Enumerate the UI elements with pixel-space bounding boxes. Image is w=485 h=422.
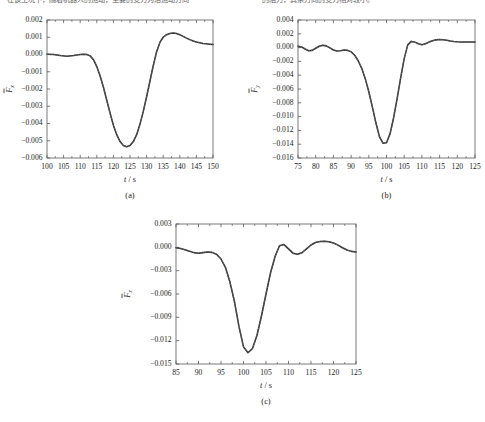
panel-a-svg: 1001051101151201251301351401451500.0020.… bbox=[0, 10, 225, 210]
x-tick-label: 95 bbox=[217, 368, 225, 377]
y-tick-label: −0.009 bbox=[150, 312, 172, 321]
data-curve bbox=[298, 39, 475, 143]
x-tick-label: 145 bbox=[191, 162, 203, 171]
y-tick-label: −0.001 bbox=[21, 67, 43, 76]
x-tick-label: 125 bbox=[350, 368, 362, 377]
x-tick-label: 100 bbox=[41, 162, 53, 171]
x-tick-label: 120 bbox=[108, 162, 120, 171]
x-tick-label: 85 bbox=[172, 368, 180, 377]
data-curve bbox=[47, 33, 213, 147]
x-tick-label: 90 bbox=[195, 368, 203, 377]
y-tick-label: 0.003 bbox=[154, 219, 171, 228]
plot-frame bbox=[47, 20, 213, 158]
x-tick-label: 80 bbox=[312, 162, 320, 171]
chart-panel-a: 1001051101151201251301351401451500.0020.… bbox=[0, 10, 225, 210]
x-tick-label: 105 bbox=[260, 368, 272, 377]
x-tick-label: 105 bbox=[399, 162, 411, 171]
x-tick-label: 150 bbox=[207, 162, 219, 171]
figure-page: 在该工况下，随着机器人的运动，主要的受力为沿运动方向 的阻力，其余方向的受力相对… bbox=[0, 0, 485, 422]
y-axis-title: Fx bbox=[4, 85, 15, 94]
panel-c-svg: 8590951001051101151201250.0030.000−0.003… bbox=[118, 212, 368, 420]
y-tick-label: −0.015 bbox=[150, 359, 172, 368]
y-tick-label: 0.000 bbox=[154, 242, 171, 251]
x-tick-label: 95 bbox=[365, 162, 373, 171]
y-tick-label: −0.006 bbox=[150, 289, 172, 298]
body-text-row: 在该工况下，随着机器人的运动，主要的受力为沿运动方向 的阻力，其余方向的受力相对… bbox=[0, 0, 485, 9]
x-tick-label: 110 bbox=[416, 162, 427, 171]
svg-text:Fx: Fx bbox=[5, 85, 15, 94]
x-tick-label: 100 bbox=[238, 368, 250, 377]
data-curve-highlight bbox=[47, 33, 213, 147]
y-tick-label: −0.012 bbox=[150, 335, 172, 344]
x-tick-label: 110 bbox=[283, 368, 294, 377]
y-tick-label: −0.014 bbox=[272, 139, 294, 148]
panel-b-svg: 75808590951001051101151201250.0040.0020.… bbox=[245, 10, 485, 210]
body-text-right: 的阻力，其余方向的受力相对较小。 bbox=[262, 0, 374, 4]
y-tick-label: −0.005 bbox=[21, 136, 43, 145]
y-tick-label: −0.010 bbox=[272, 111, 294, 120]
x-tick-label: 120 bbox=[328, 368, 340, 377]
y-axis-title: Fz bbox=[122, 290, 133, 299]
y-tick-label: 0.004 bbox=[276, 15, 293, 24]
x-tick-label: 105 bbox=[58, 162, 70, 171]
panel-caption: (a) bbox=[125, 191, 135, 200]
x-tick-label: 85 bbox=[330, 162, 338, 171]
x-tick-label: 135 bbox=[158, 162, 170, 171]
x-tick-label: 90 bbox=[347, 162, 355, 171]
y-tick-label: −0.002 bbox=[21, 84, 43, 93]
x-tick-label: 100 bbox=[381, 162, 393, 171]
x-axis-title: t / s bbox=[260, 381, 272, 390]
x-tick-label: 125 bbox=[469, 162, 481, 171]
y-tick-label: −0.004 bbox=[21, 118, 43, 127]
x-tick-label: 115 bbox=[305, 368, 316, 377]
x-tick-label: 140 bbox=[174, 162, 186, 171]
x-tick-label: 130 bbox=[141, 162, 153, 171]
x-tick-label: 75 bbox=[294, 162, 302, 171]
data-curve bbox=[176, 241, 356, 352]
y-axis-title: Fy bbox=[249, 85, 260, 94]
x-tick-label: 115 bbox=[434, 162, 445, 171]
y-tick-label: −0.003 bbox=[150, 265, 172, 274]
chart-panel-b: 75808590951001051101151201250.0040.0020.… bbox=[245, 10, 485, 210]
x-tick-label: 125 bbox=[124, 162, 136, 171]
x-tick-label: 110 bbox=[75, 162, 86, 171]
x-axis-title: t / s bbox=[381, 175, 393, 184]
y-tick-label: −0.012 bbox=[272, 125, 294, 134]
body-text-left: 在该工况下，随着机器人的运动，主要的受力为沿运动方向 bbox=[7, 0, 189, 4]
y-tick-label: −0.003 bbox=[21, 101, 43, 110]
y-tick-label: −0.006 bbox=[21, 153, 43, 162]
x-axis-title: t / s bbox=[124, 175, 136, 184]
y-tick-label: 0.000 bbox=[276, 42, 293, 51]
y-tick-label: 0.002 bbox=[276, 29, 293, 38]
y-tick-label: −0.008 bbox=[272, 98, 294, 107]
x-tick-label: 120 bbox=[452, 162, 464, 171]
chart-panel-c: 8590951001051101151201250.0030.000−0.003… bbox=[118, 212, 368, 420]
y-tick-label: −0.006 bbox=[272, 84, 294, 93]
data-curve-highlight bbox=[298, 39, 475, 143]
x-tick-label: 115 bbox=[91, 162, 102, 171]
panel-caption: (b) bbox=[382, 191, 392, 200]
y-tick-label: 0.002 bbox=[25, 15, 42, 24]
y-tick-label: −0.004 bbox=[272, 70, 294, 79]
y-tick-label: 0.000 bbox=[25, 49, 42, 58]
y-tick-label: 0.001 bbox=[25, 32, 42, 41]
svg-text:Fz: Fz bbox=[123, 290, 133, 299]
y-tick-label: −0.016 bbox=[272, 153, 294, 162]
panel-caption: (c) bbox=[261, 397, 271, 406]
y-tick-label: −0.002 bbox=[272, 56, 294, 65]
svg-text:Fy: Fy bbox=[250, 85, 260, 94]
